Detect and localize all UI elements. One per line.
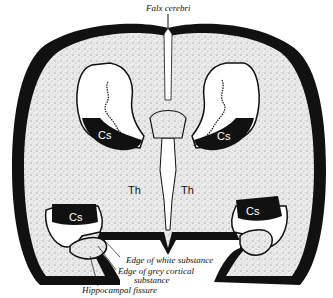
label-cs-upper-left: Cs [98, 130, 111, 141]
label-edge-white-substance: Edge of white substance [126, 256, 213, 265]
label-cs-lower-left: Cs [69, 212, 82, 223]
label-falx-cerebri: Falx cerebri [146, 4, 190, 13]
brain-section-diagram [0, 0, 333, 298]
label-cs-lower-right: Cs [246, 206, 259, 217]
label-hippocampal-fissure: Hippocampal fissure [82, 286, 157, 295]
label-cs-upper-right: Cs [217, 131, 230, 142]
falx-cerebri [164, 28, 172, 100]
hippocampus-right [240, 230, 272, 255]
septum-region [150, 111, 186, 139]
label-th-right: Th [181, 185, 194, 196]
label-edge-grey-substance: substance [134, 276, 170, 285]
label-th-left: Th [128, 185, 141, 196]
